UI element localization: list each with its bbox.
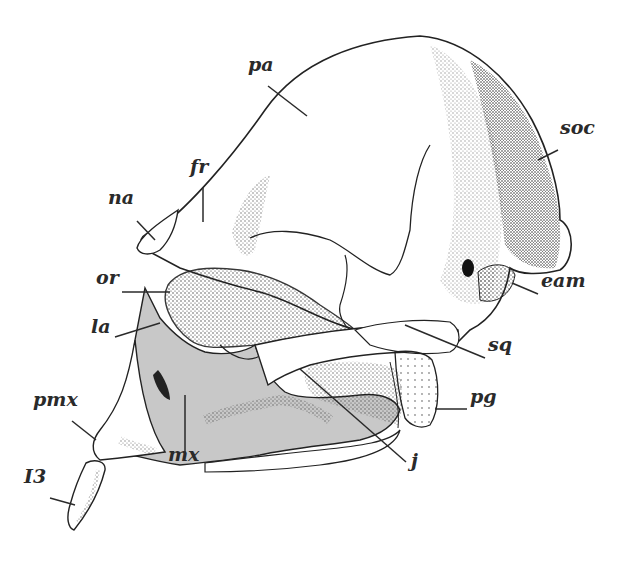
skull-illustration bbox=[0, 0, 617, 563]
label-eam: eam bbox=[541, 271, 586, 290]
incisor-I3 bbox=[68, 461, 105, 530]
label-na: na bbox=[108, 188, 134, 207]
label-fr: fr bbox=[190, 157, 208, 176]
skull-diagram: pa fr na soc or la eam sq pg pmx mx j I3 bbox=[0, 0, 617, 563]
label-soc: soc bbox=[560, 118, 595, 137]
label-j: j bbox=[411, 451, 418, 470]
label-sq: sq bbox=[488, 335, 512, 354]
leader-pmx bbox=[72, 421, 96, 440]
label-pa: pa bbox=[248, 55, 274, 74]
label-mx: mx bbox=[168, 445, 199, 464]
label-or: or bbox=[96, 268, 119, 287]
label-pmx: pmx bbox=[33, 390, 78, 409]
label-I3: I3 bbox=[24, 467, 46, 486]
label-la: la bbox=[91, 317, 111, 336]
label-pg: pg bbox=[470, 387, 497, 406]
leader-eam bbox=[512, 283, 538, 294]
